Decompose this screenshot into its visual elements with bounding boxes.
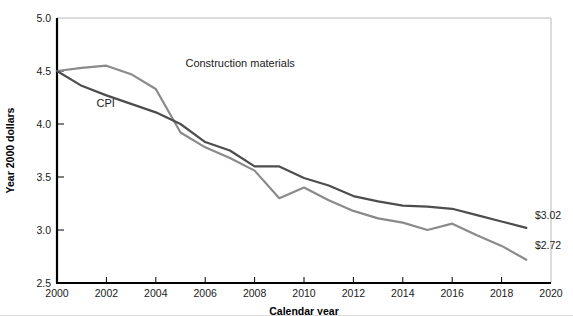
y-tick-label: 3.5	[36, 171, 51, 183]
x-tick-label: 2004	[144, 287, 168, 299]
y-tick-label: 3.0	[36, 224, 51, 236]
series-line-construction-materials	[57, 66, 526, 260]
end-value-annotations: $3.02$2.72	[535, 209, 561, 251]
y-tick-label: 2.5	[36, 277, 51, 289]
x-tick-label: 2018	[490, 287, 514, 299]
chart-figure: 2000200220042006200820102012201420162018…	[0, 0, 573, 316]
x-tick-label: 2002	[95, 287, 119, 299]
y-tick-label: 4.5	[36, 65, 51, 77]
y-axis-tick-labels: 2.53.03.54.04.55.0	[36, 12, 51, 289]
series-line-cpi	[57, 71, 526, 228]
y-tick-label: 5.0	[36, 12, 51, 24]
series-label-cpi: CPI	[97, 97, 115, 109]
x-tick-label: 2014	[391, 287, 415, 299]
x-tick-label: 2016	[441, 287, 465, 299]
plot-frame	[56, 18, 551, 283]
x-tick-label: 2012	[342, 287, 366, 299]
x-tick-label: 2008	[243, 287, 267, 299]
x-tick-label: 2020	[539, 287, 563, 299]
x-axis-tick-labels: 2000200220042006200820102012201420162018…	[45, 287, 563, 299]
y-axis-title: Year 2000 dollars	[4, 107, 16, 193]
cpi-end-value: $3.02	[535, 209, 561, 221]
line-chart-svg: 2000200220042006200820102012201420162018…	[0, 0, 573, 316]
data-series	[57, 66, 526, 260]
axis-titles: Calendar yearYear 2000 dollars	[4, 107, 339, 316]
construction-end-value: $2.72	[535, 239, 561, 251]
series-label-construction-materials: Construction materials	[185, 57, 295, 69]
y-tick-label: 4.0	[36, 118, 51, 130]
x-tick-label: 2010	[292, 287, 316, 299]
x-tick-label: 2006	[194, 287, 218, 299]
axis-ticks	[57, 71, 502, 283]
